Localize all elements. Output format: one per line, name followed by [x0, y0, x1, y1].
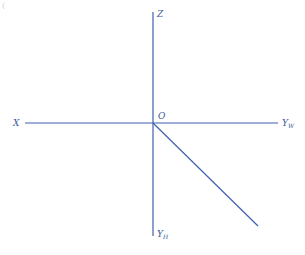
- yh-axis-label: YH: [157, 229, 169, 240]
- z-axis-label: Z: [156, 9, 164, 19]
- origin-label: O: [158, 111, 166, 121]
- diagonal-45-line: [153, 123, 258, 226]
- figure-corner-mark: (: [2, 1, 5, 10]
- projection-axes-diagram: ( Z X O YW YH: [0, 0, 305, 255]
- yw-axis-label: YW: [282, 118, 295, 129]
- x-axis-label: X: [12, 118, 20, 128]
